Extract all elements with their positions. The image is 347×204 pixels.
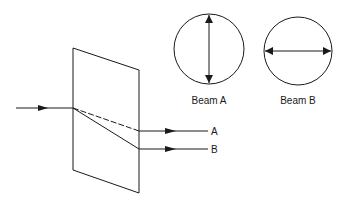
birefringence-diagram: A B Beam A Beam B: [0, 0, 347, 204]
arrow-right-icon: [165, 146, 176, 152]
beam-a-label: A: [211, 126, 218, 137]
crystal-plate: [73, 48, 139, 193]
beam-a-caption: Beam A: [191, 95, 226, 106]
polarization-view-beam-b: Beam B: [264, 17, 332, 106]
incident-beam: [16, 105, 73, 111]
arrow-right-icon: [38, 105, 48, 111]
beam-a-path: A: [73, 108, 218, 137]
polarization-view-beam-a: Beam A: [174, 14, 244, 106]
arrow-right-icon: [165, 128, 176, 134]
beam-b-label: B: [211, 144, 218, 155]
beam-b-caption: Beam B: [280, 95, 316, 106]
